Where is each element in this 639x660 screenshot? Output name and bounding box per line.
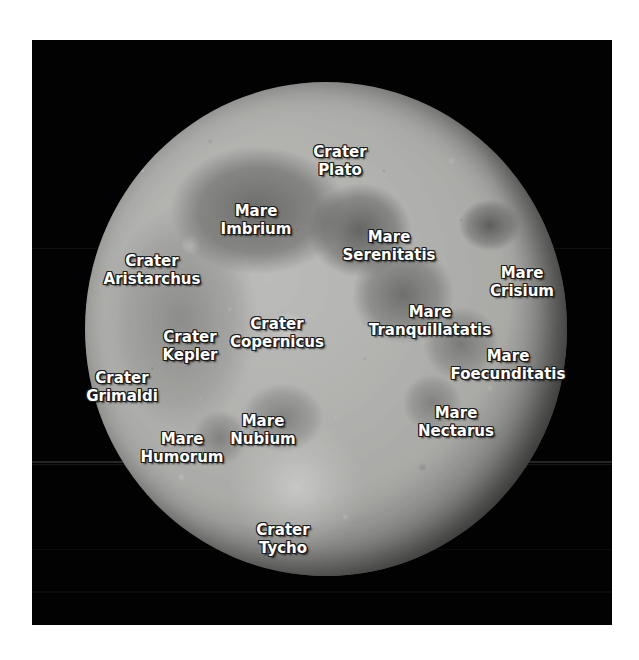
moon-photograph: CraterPlatoMareImbriumMareSerenitatisCra… <box>32 40 612 625</box>
feature-label-kind: Mare <box>141 430 224 448</box>
feature-label-kind: Mare <box>221 202 292 220</box>
feature-label-kind: Mare <box>418 404 494 422</box>
feature-label-kind: Mare <box>343 228 436 246</box>
lunar-map-page: CraterPlatoMareImbriumMareSerenitatisCra… <box>0 0 639 660</box>
feature-label-grimaldi: CraterGrimaldi <box>86 369 158 406</box>
scanline-artifact <box>32 591 612 593</box>
feature-label-imbrium: MareImbrium <box>221 202 292 239</box>
feature-label-name: Humorum <box>141 448 224 466</box>
feature-label-kind: Mare <box>490 264 554 282</box>
feature-label-name: Grimaldi <box>86 387 158 405</box>
feature-label-name: Serenitatis <box>343 246 436 264</box>
feature-label-copernicus: CraterCopernicus <box>230 315 324 352</box>
feature-label-tycho: CraterTycho <box>256 521 309 558</box>
feature-label-kind: Crater <box>163 328 218 346</box>
feature-label-name: Tranquillatatis <box>369 321 491 339</box>
feature-label-name: Crisium <box>490 282 554 300</box>
feature-label-kepler: CraterKepler <box>163 328 218 365</box>
feature-label-nectarus: MareNectarus <box>418 404 494 441</box>
feature-label-name: Imbrium <box>221 220 292 238</box>
feature-label-nubium: MareNubium <box>230 412 295 449</box>
feature-label-name: Nectarus <box>418 422 494 440</box>
feature-label-plato: CraterPlato <box>313 143 366 180</box>
feature-label-kind: Mare <box>451 347 566 365</box>
feature-label-name: Kepler <box>163 346 218 364</box>
feature-label-kind: Crater <box>104 252 201 270</box>
feature-label-tranquillatatis: MareTranquillatatis <box>369 303 491 340</box>
feature-label-name: Plato <box>313 161 366 179</box>
feature-label-name: Foecunditatis <box>451 365 566 383</box>
feature-label-kind: Mare <box>230 412 295 430</box>
feature-label-aristarchus: CraterAristarchus <box>104 252 201 289</box>
feature-label-crisium: MareCrisium <box>490 264 554 301</box>
feature-label-humorum: MareHumorum <box>141 430 224 467</box>
feature-label-kind: Mare <box>369 303 491 321</box>
feature-label-kind: Crater <box>313 143 366 161</box>
feature-label-serenitatis: MareSerenitatis <box>343 228 436 265</box>
feature-label-kind: Crater <box>256 521 309 539</box>
feature-label-name: Copernicus <box>230 333 324 351</box>
feature-label-kind: Crater <box>230 315 324 333</box>
feature-label-name: Aristarchus <box>104 270 201 288</box>
feature-label-foecunditatis: MareFoecunditatis <box>451 347 566 384</box>
feature-label-name: Tycho <box>256 539 309 557</box>
feature-label-kind: Crater <box>86 369 158 387</box>
feature-label-name: Nubium <box>230 430 295 448</box>
